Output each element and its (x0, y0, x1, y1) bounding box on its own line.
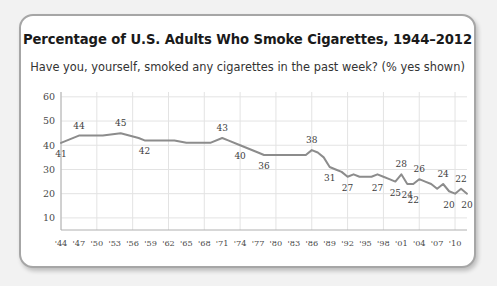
x-axis-tick-label: '98 (377, 238, 390, 248)
data-point-label: 40 (234, 151, 246, 161)
x-axis-tick-label: '07 (431, 238, 444, 248)
data-point-label: 38 (306, 135, 318, 145)
data-point-label: 44 (73, 121, 85, 131)
data-point-label: 27 (372, 183, 384, 193)
x-axis-tick-label: '01 (395, 238, 408, 248)
x-axis-tick-label: '71 (216, 238, 229, 248)
chart-plot-area: 102030405060 '44'47'50'53'56'59'62'65'68… (21, 84, 476, 268)
x-axis-tick-label: '65 (180, 238, 193, 248)
data-point-label: 20 (461, 200, 473, 210)
x-axis-tick-label: '89 (323, 238, 336, 248)
data-point-label: 25 (390, 188, 402, 198)
x-axis-tick-label: '56 (126, 238, 139, 248)
data-point-label: 22 (455, 174, 466, 184)
y-axis-tick-label: 50 (43, 115, 55, 126)
data-point-labels: 4144454240433638312727252824262224202220 (55, 118, 473, 210)
data-point-label: 20 (443, 200, 455, 210)
y-axis-tick-label: 20 (43, 188, 55, 199)
x-axis-tick-label: '50 (90, 238, 103, 248)
x-axis-tick-label: '86 (305, 238, 318, 248)
data-point-label: 43 (216, 123, 228, 133)
x-axis-tick-label: '95 (359, 238, 372, 248)
x-axis-tick-labels: '44'47'50'53'56'59'62'65'68'71'74'77'80'… (55, 238, 462, 248)
x-axis-tick-label: '74 (234, 238, 247, 248)
chart-subtitle: Have you, yourself, smoked any cigarette… (21, 60, 474, 74)
data-point-label: 27 (342, 183, 354, 193)
data-point-label: 22 (408, 195, 419, 205)
data-point-label: 28 (396, 159, 408, 169)
data-point-label: 36 (258, 161, 270, 171)
x-axis-tick-label: '62 (162, 238, 175, 248)
x-axis-tick-label: '44 (55, 238, 68, 248)
y-axis-tick-label: 30 (43, 164, 55, 175)
x-axis-tick-label: '59 (144, 238, 157, 248)
y-axis-tick-label: 40 (43, 140, 55, 151)
data-point-label: 42 (139, 146, 150, 156)
x-axis-tick-label: '77 (252, 238, 265, 248)
data-point-label: 41 (55, 149, 66, 159)
x-axis-tick-label: '10 (449, 238, 462, 248)
data-point-label: 45 (115, 118, 127, 128)
y-axis-tick-label: 10 (43, 212, 55, 223)
x-axis-tick-label: '68 (198, 238, 211, 248)
y-axis-tick-label: 60 (43, 91, 55, 102)
x-axis-tick-label: '83 (288, 238, 301, 248)
x-axis-tick-label: '04 (413, 238, 426, 248)
line-chart: 102030405060 '44'47'50'53'56'59'62'65'68… (21, 84, 476, 268)
x-axis-tick-label: '92 (341, 238, 354, 248)
y-axis-tick-labels: 102030405060 (43, 91, 55, 223)
chart-card: Percentage of U.S. Adults Who Smoke Ciga… (19, 14, 476, 268)
chart-title: Percentage of U.S. Adults Who Smoke Ciga… (21, 32, 474, 47)
x-axis-tick-label: '80 (270, 238, 283, 248)
data-point-label: 24 (437, 169, 449, 179)
x-axis-tick-label: '47 (73, 238, 86, 248)
x-axis-tick-label: '53 (108, 238, 121, 248)
data-point-label: 31 (324, 173, 335, 183)
data-point-label: 26 (414, 164, 426, 174)
